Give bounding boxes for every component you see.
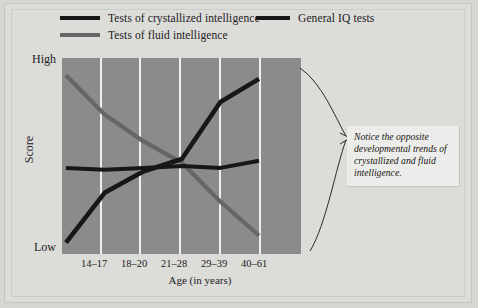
legend-item-general-iq: General IQ tests	[256, 12, 374, 24]
legend-swatch-fluid	[60, 33, 100, 37]
chart-figure: Tests of crystallized intelligence Gener…	[0, 0, 478, 308]
x-tick-label-4: 40–61	[231, 258, 277, 269]
x-axis-title: Age (in years)	[120, 274, 280, 286]
legend-label-general-iq: General IQ tests	[298, 12, 374, 24]
chart-legend: Tests of crystallized intelligence Gener…	[60, 12, 460, 46]
legend-swatch-general-iq	[256, 16, 290, 20]
legend-swatch-crystallized	[60, 16, 100, 20]
annotation-box: Notice the opposite developmental trends…	[347, 126, 459, 186]
y-axis-high-label: High	[4, 52, 56, 67]
legend-label-fluid: Tests of fluid intelligence	[108, 29, 228, 41]
series-lines-overlay	[62, 58, 301, 254]
legend-label-crystallized: Tests of crystallized intelligence	[108, 12, 260, 24]
series-line-general-iq-main	[66, 161, 259, 170]
y-axis-low-label: Low	[4, 240, 56, 255]
y-axis-title: Score	[22, 115, 37, 185]
legend-item-crystallized: Tests of crystallized intelligence	[60, 12, 260, 24]
series-line-crystallized-main	[66, 79, 259, 243]
legend-item-fluid: Tests of fluid intelligence	[60, 29, 228, 41]
